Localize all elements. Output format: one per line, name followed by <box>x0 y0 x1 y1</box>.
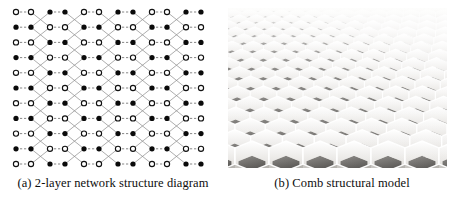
network-node-filled <box>164 25 169 30</box>
network-node-hollow <box>115 116 120 121</box>
network-node-filled <box>47 40 52 45</box>
network-node-filled <box>13 85 18 90</box>
network-node-hollow <box>62 55 67 60</box>
network-node-filled <box>62 40 67 45</box>
network-node-hollow <box>96 161 101 166</box>
network-node-hollow <box>198 55 203 60</box>
network-node-hollow <box>115 85 120 90</box>
network-node-filled <box>198 131 203 136</box>
network-node-hollow <box>28 70 33 75</box>
network-node-filled <box>198 70 203 75</box>
network-node-hollow <box>81 40 86 45</box>
network-node-hollow <box>198 25 203 30</box>
network-node-filled <box>164 116 169 121</box>
network-node-filled <box>62 161 67 166</box>
network-node-filled <box>198 161 203 166</box>
network-node-hollow <box>183 55 188 60</box>
network-node-hollow <box>81 101 86 106</box>
network-node-hollow <box>149 161 154 166</box>
network-node-hollow <box>13 161 18 166</box>
network-node-filled <box>96 85 101 90</box>
network-node-hollow <box>149 131 154 136</box>
network-node-hollow <box>149 101 154 106</box>
network-node-filled <box>28 116 33 121</box>
network-node-hollow <box>149 9 154 14</box>
network-node-filled <box>96 55 101 60</box>
network-node-filled <box>164 55 169 60</box>
network-node-hollow <box>115 55 120 60</box>
network-node-hollow <box>28 40 33 45</box>
network-node-filled <box>115 101 120 106</box>
network-node-hollow <box>149 70 154 75</box>
network-node-filled <box>183 70 188 75</box>
network-node-hollow <box>164 131 169 136</box>
network-node-hollow <box>149 40 154 45</box>
network-node-filled <box>13 25 18 30</box>
network-node-filled <box>164 85 169 90</box>
network-node-filled <box>96 116 101 121</box>
network-node-hollow <box>198 116 203 121</box>
network-node-filled <box>198 101 203 106</box>
network-node-filled <box>130 161 135 166</box>
network-node-filled <box>149 116 154 121</box>
network-node-filled <box>47 9 52 14</box>
network-node-filled <box>62 131 67 136</box>
network-node-hollow <box>81 131 86 136</box>
network-node-filled <box>28 85 33 90</box>
network-node-filled <box>81 55 86 60</box>
network-node-filled <box>115 9 120 14</box>
network-node-hollow <box>96 101 101 106</box>
network-node-filled <box>183 101 188 106</box>
network-node-filled <box>81 85 86 90</box>
panel-b: (b) Comb structural model <box>226 0 458 204</box>
network-node-hollow <box>130 146 135 151</box>
network-node-hollow <box>13 9 18 14</box>
network-node-filled <box>62 9 67 14</box>
network-node-hollow <box>62 146 67 151</box>
network-node-filled <box>115 40 120 45</box>
network-node-hollow <box>62 85 67 90</box>
network-node-hollow <box>28 9 33 14</box>
network-node-hollow <box>47 55 52 60</box>
network-node-hollow <box>164 101 169 106</box>
network-node-filled <box>62 70 67 75</box>
panel-a-caption: (a) 2-layer network structure diagram <box>0 176 226 191</box>
network-node-hollow <box>164 161 169 166</box>
network-node-hollow <box>28 101 33 106</box>
network-node-hollow <box>62 116 67 121</box>
network-node-filled <box>183 131 188 136</box>
network-node-filled <box>198 9 203 14</box>
network-node-hollow <box>47 25 52 30</box>
network-node-filled <box>164 146 169 151</box>
network-node-hollow <box>96 40 101 45</box>
network-node-hollow <box>81 70 86 75</box>
network-node-filled <box>28 25 33 30</box>
network-node-hollow <box>13 131 18 136</box>
network-node-hollow <box>96 131 101 136</box>
network-node-filled <box>28 55 33 60</box>
network-node-hollow <box>130 25 135 30</box>
network-node-hollow <box>164 9 169 14</box>
network-node-filled <box>47 101 52 106</box>
network-node-hollow <box>96 70 101 75</box>
network-node-filled <box>81 25 86 30</box>
network-node-filled <box>130 101 135 106</box>
network-node-hollow <box>28 131 33 136</box>
network-node-filled <box>198 40 203 45</box>
network-node-filled <box>183 40 188 45</box>
network-node-filled <box>130 131 135 136</box>
network-node-filled <box>96 25 101 30</box>
network-node-hollow <box>81 161 86 166</box>
network-node-filled <box>183 9 188 14</box>
network-nodes <box>13 9 203 166</box>
network-node-filled <box>115 131 120 136</box>
network-node-hollow <box>130 85 135 90</box>
panel-b-caption: (b) Comb structural model <box>226 176 458 191</box>
network-node-filled <box>149 25 154 30</box>
honeycomb-render <box>228 8 447 168</box>
network-node-hollow <box>198 85 203 90</box>
network-structure-diagram <box>6 4 220 174</box>
network-node-filled <box>96 146 101 151</box>
network-node-filled <box>47 70 52 75</box>
network-node-filled <box>149 146 154 151</box>
